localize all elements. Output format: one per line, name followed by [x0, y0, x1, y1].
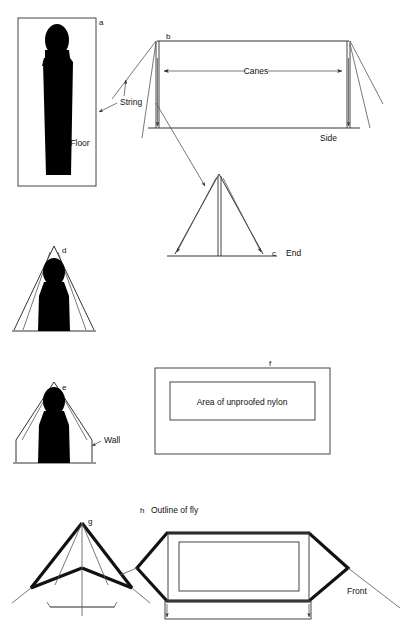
end-guy-left [177, 178, 216, 252]
panel-c-end-elevation: c End [167, 174, 301, 258]
panel-a-floor-plan: a Floor [18, 18, 104, 186]
end-roof-lines [175, 174, 263, 254]
string-annotation: String [99, 80, 142, 112]
label-d: d [62, 246, 66, 255]
panel-d-end-section: d [12, 246, 96, 331]
label-c: c [272, 249, 276, 258]
guy-line-right-lower [350, 44, 370, 128]
panel-g-perspective: g [12, 517, 150, 616]
label-canes: Canes [244, 66, 269, 76]
label-b: b [166, 32, 171, 41]
h-apron-rect [165, 601, 311, 619]
figure-silhouette-reclining [42, 24, 73, 175]
g-guy-left [12, 588, 31, 603]
panel-b-side-elevation: Canes b Side [112, 32, 383, 143]
leader-side-to-end [156, 103, 205, 186]
guy-line-right-upper [350, 41, 383, 104]
h-inner-rect-inner [179, 542, 299, 591]
label-f: f [269, 359, 272, 368]
label-e: e [62, 383, 67, 392]
h-guy-left [120, 568, 137, 575]
end-guy-right [223, 178, 261, 252]
label-front: Front [347, 586, 367, 596]
label-g: g [88, 517, 92, 526]
diagram-canvas: a Floor Canes b Side String [0, 0, 417, 624]
tent-diagram: a Floor Canes b Side String [0, 0, 417, 624]
panel-h-fly-plan: h Outline of fly Front [120, 505, 400, 619]
label-string: String [120, 97, 142, 107]
f-outer-rect [155, 368, 330, 454]
label-unproofed-nylon: Area of unproofed nylon [197, 397, 288, 407]
panel-f-fabric-panel: Area of unproofed nylon f [155, 359, 330, 454]
guy-line-left-upper [112, 41, 156, 99]
g-guy-right [132, 588, 150, 603]
string-leader-to-floor [99, 103, 117, 112]
label-side: Side [320, 133, 337, 143]
wall-leader [92, 441, 101, 446]
panel-e-end-section-wall: e Wall [13, 382, 120, 463]
label-h: h [140, 506, 144, 515]
label-floor: Floor [70, 138, 90, 148]
label-end: End [286, 248, 301, 258]
label-outline-of-fly: Outline of fly [151, 505, 199, 515]
label-wall: Wall [104, 435, 120, 445]
label-a: a [99, 18, 104, 27]
